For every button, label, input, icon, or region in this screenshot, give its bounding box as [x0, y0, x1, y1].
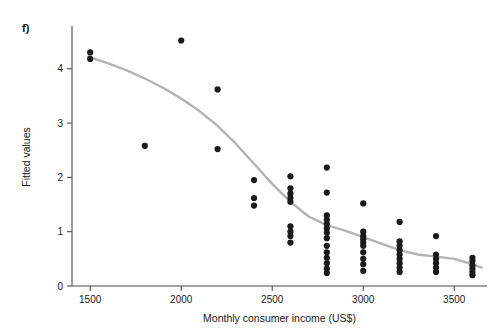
- y-tick-label: 0: [57, 281, 63, 292]
- data-point: [287, 199, 293, 205]
- x-tick-label: 3000: [352, 294, 375, 305]
- data-point: [360, 200, 366, 206]
- y-tick-label: 4: [57, 63, 63, 74]
- data-point: [360, 261, 366, 267]
- data-point: [287, 233, 293, 239]
- x-tick-label: 2000: [170, 294, 193, 305]
- data-point: [324, 260, 330, 266]
- data-point: [287, 223, 293, 229]
- data-point: [87, 49, 93, 55]
- data-point: [360, 268, 366, 274]
- data-point: [433, 233, 439, 239]
- data-point: [324, 164, 330, 170]
- data-point: [287, 185, 293, 191]
- data-point: [360, 243, 366, 249]
- x-tick-label: 1500: [79, 294, 102, 305]
- data-point: [251, 195, 257, 201]
- figure-container: f) 0123415002000250030003500Monthly cons…: [0, 0, 503, 330]
- y-axis-title: Fitted values: [20, 127, 32, 187]
- data-point: [324, 249, 330, 255]
- data-point: [251, 177, 257, 183]
- scatter-plot: 0123415002000250030003500Monthly consume…: [0, 0, 503, 330]
- data-point: [360, 256, 366, 262]
- data-point: [324, 235, 330, 241]
- data-point: [324, 243, 330, 249]
- data-point: [324, 230, 330, 236]
- data-point: [215, 146, 221, 152]
- x-tick-label: 2500: [261, 294, 284, 305]
- x-tick-label: 3500: [443, 294, 466, 305]
- data-point: [287, 173, 293, 179]
- data-point: [397, 219, 403, 225]
- data-point: [251, 203, 257, 209]
- x-axis-title: Monthly consumer income (US$): [203, 312, 356, 324]
- y-tick-label: 2: [57, 172, 63, 183]
- data-point: [287, 239, 293, 245]
- data-point: [87, 56, 93, 62]
- data-point: [215, 86, 221, 92]
- data-point: [178, 37, 184, 43]
- data-point: [324, 189, 330, 195]
- data-point: [397, 269, 403, 275]
- data-point: [324, 270, 330, 276]
- data-point: [142, 143, 148, 149]
- y-tick-label: 1: [57, 226, 63, 237]
- data-point: [324, 255, 330, 261]
- data-point: [469, 272, 475, 278]
- data-point: [433, 269, 439, 275]
- y-tick-label: 3: [57, 118, 63, 129]
- fit-line: [88, 57, 481, 268]
- data-point: [360, 249, 366, 255]
